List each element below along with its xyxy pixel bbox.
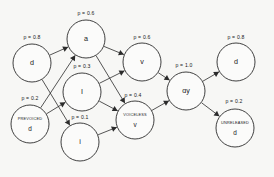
probability-label-ah: p = 0.6 [77, 10, 94, 16]
node-feature-label: VOICELESS [123, 112, 147, 117]
node-prevoiced_d[interactable]: PREVOICEDd [11, 105, 49, 143]
node-ih_cap[interactable]: I [63, 73, 101, 111]
arrow-head-icon [59, 102, 65, 107]
edge-ah-to-v [104, 46, 124, 55]
node-v[interactable]: v [123, 43, 161, 81]
pronunciation-network-diagram: dPREVOICEDdaIivVOICELESSvɑydUNRELEASEDd … [0, 0, 274, 177]
edge-i_low-to-voiceless_v [98, 126, 117, 134]
diagram-canvas: dPREVOICEDdaIivVOICELESSvɑydUNRELEASEDd … [0, 0, 274, 177]
node-voiceless_v[interactable]: VOICELESSv [116, 101, 154, 139]
edge-voiceless_v-to-ay [152, 101, 169, 111]
probability-label-ay: p = 1.0 [175, 62, 192, 68]
arrow-head-icon [214, 111, 220, 116]
edge-ay-to-unreleased_d [202, 103, 220, 116]
node-circle[interactable] [216, 109, 254, 147]
node-d_end[interactable]: d [217, 43, 255, 81]
node-circle[interactable] [116, 101, 154, 139]
probability-label-d_end: p = 0.8 [227, 34, 244, 40]
node-symbol-label: I [81, 87, 83, 96]
node-symbol-label: d [234, 57, 238, 66]
node-symbol-label: ɑy [182, 86, 190, 95]
node-feature-label: UNRELEASED [221, 120, 249, 125]
probability-label-ih_cap: p = 0.3 [73, 63, 90, 69]
probability-label-prevoiced_d: p = 0.2 [21, 95, 38, 101]
probability-label-d_start: p = 0.8 [23, 34, 40, 40]
node-i_low[interactable]: i [61, 123, 99, 161]
node-feature-label: PREVOICED [18, 116, 42, 121]
edge-ay-to-d_end [203, 72, 219, 81]
probability-label-v: p = 0.6 [133, 34, 150, 40]
node-symbol-label: d [30, 58, 34, 67]
node-symbol-label: d [28, 125, 32, 132]
edge-v-to-ay [158, 73, 169, 81]
node-ah[interactable]: a [67, 20, 105, 58]
node-unreleased_d[interactable]: UNRELEASEDd [216, 109, 254, 147]
node-circle[interactable] [11, 105, 49, 143]
probability-label-voiceless_v: p = 0.4 [124, 92, 141, 98]
node-ay[interactable]: ɑy [167, 72, 205, 110]
arrow-head-icon [164, 75, 170, 80]
probability-label-unreleased_d: p = 0.2 [225, 98, 242, 104]
node-d_start[interactable]: d [13, 44, 51, 82]
edge-ih_cap-to-voiceless_v [99, 101, 118, 111]
edge-d_start-to-ah [50, 46, 68, 55]
node-symbol-label: v [140, 57, 144, 66]
arrow-head-icon [65, 119, 70, 125]
node-symbol-label: d [233, 129, 237, 136]
node-layer: dPREVOICEDdaIivVOICELESSvɑydUNRELEASEDd [11, 20, 255, 161]
node-symbol-label: a [84, 34, 88, 43]
edge-prevoiced_d-to-ih_cap [47, 102, 66, 114]
arrow-head-icon [70, 55, 75, 61]
probability-label-i_low: p = 0.1 [71, 114, 88, 120]
